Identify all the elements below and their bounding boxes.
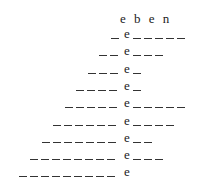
blanks-before	[53, 115, 119, 130]
blank-slot[interactable]	[144, 115, 152, 126]
blank-slot[interactable]	[133, 149, 141, 160]
revealed-letter: e	[124, 43, 130, 59]
blank-slot[interactable]	[86, 115, 94, 126]
blank-slot[interactable]	[87, 97, 95, 108]
puzzle-row: e	[0, 45, 199, 61]
blanks-after	[133, 132, 155, 147]
revealed-letter: e	[124, 147, 130, 163]
blank-slot[interactable]	[96, 166, 104, 177]
puzzle-row: e	[0, 149, 199, 165]
blank-slot[interactable]	[133, 45, 141, 56]
blank-slot[interactable]	[99, 63, 107, 74]
puzzle-header: e b e n	[120, 11, 172, 27]
blank-slot[interactable]	[109, 97, 117, 108]
blank-slot[interactable]	[111, 28, 119, 39]
revealed-letter: e	[124, 78, 130, 94]
blank-slot[interactable]	[75, 132, 83, 143]
blank-slot[interactable]	[133, 63, 141, 74]
blank-slot[interactable]	[133, 132, 141, 143]
blank-slot[interactable]	[98, 97, 106, 108]
blank-slot[interactable]	[52, 149, 60, 160]
blank-slot[interactable]	[177, 28, 185, 39]
blank-slot[interactable]	[144, 97, 152, 108]
blank-slot[interactable]	[96, 149, 104, 160]
blank-slot[interactable]	[42, 132, 50, 143]
blank-slot[interactable]	[108, 132, 116, 143]
revealed-letter: e	[124, 130, 130, 146]
blank-slot[interactable]	[110, 45, 118, 56]
blank-slot[interactable]	[85, 149, 93, 160]
blank-slot[interactable]	[155, 149, 163, 160]
blank-slot[interactable]	[86, 132, 94, 143]
puzzle-row: e	[0, 28, 199, 44]
blank-slot[interactable]	[155, 45, 163, 56]
blank-slot[interactable]	[166, 28, 174, 39]
blanks-before	[30, 149, 118, 164]
blank-slot[interactable]	[166, 97, 174, 108]
blanks-after	[133, 115, 177, 130]
blank-slot[interactable]	[76, 97, 84, 108]
blank-slot[interactable]	[144, 45, 152, 56]
blank-slot[interactable]	[109, 80, 117, 91]
blank-slot[interactable]	[155, 97, 163, 108]
blank-slot[interactable]	[155, 28, 163, 39]
blank-slot[interactable]	[76, 80, 84, 91]
blank-slot[interactable]	[75, 115, 83, 126]
blank-slot[interactable]	[133, 80, 141, 91]
blanks-after	[133, 97, 188, 112]
blank-slot[interactable]	[64, 132, 72, 143]
blank-slot[interactable]	[177, 97, 185, 108]
blank-slot[interactable]	[63, 149, 71, 160]
blank-slot[interactable]	[144, 132, 152, 143]
blank-slot[interactable]	[41, 149, 49, 160]
blanks-after	[133, 45, 166, 60]
blanks-before	[111, 28, 122, 43]
blank-slot[interactable]	[64, 115, 72, 126]
blank-slot[interactable]	[74, 149, 82, 160]
blanks-before	[65, 97, 120, 112]
blank-slot[interactable]	[88, 63, 96, 74]
revealed-letter: e	[124, 164, 130, 180]
blank-slot[interactable]	[97, 115, 105, 126]
blank-slot[interactable]	[53, 115, 61, 126]
blank-slot[interactable]	[133, 115, 141, 126]
blanks-before	[19, 166, 118, 180]
blank-slot[interactable]	[133, 97, 141, 108]
blank-slot[interactable]	[41, 166, 49, 177]
blank-slot[interactable]	[133, 28, 141, 39]
blanks-before	[42, 132, 119, 147]
blank-slot[interactable]	[19, 166, 27, 177]
blank-slot[interactable]	[30, 149, 38, 160]
revealed-letter: e	[124, 95, 130, 111]
blank-slot[interactable]	[108, 115, 116, 126]
blank-slot[interactable]	[107, 149, 115, 160]
blanks-after	[133, 149, 166, 164]
blank-slot[interactable]	[65, 97, 73, 108]
revealed-letter: e	[124, 26, 130, 42]
puzzle-row: e	[0, 132, 199, 148]
blanks-before	[76, 80, 120, 95]
blank-slot[interactable]	[63, 166, 71, 177]
blank-slot[interactable]	[110, 63, 118, 74]
blank-slot[interactable]	[99, 45, 107, 56]
blanks-after	[133, 63, 144, 78]
blank-slot[interactable]	[107, 166, 115, 177]
blank-slot[interactable]	[144, 28, 152, 39]
blank-slot[interactable]	[97, 132, 105, 143]
blanks-before	[88, 63, 121, 78]
blank-slot[interactable]	[30, 166, 38, 177]
blank-slot[interactable]	[144, 149, 152, 160]
puzzle-row: e	[0, 80, 199, 96]
puzzle-row: e	[0, 97, 199, 113]
puzzle-row: e	[0, 166, 199, 180]
blank-slot[interactable]	[74, 166, 82, 177]
blank-slot[interactable]	[53, 132, 61, 143]
blanks-after	[133, 28, 188, 43]
blank-slot[interactable]	[52, 166, 60, 177]
blank-slot[interactable]	[87, 80, 95, 91]
blank-slot[interactable]	[155, 115, 163, 126]
blank-slot[interactable]	[85, 166, 93, 177]
blank-slot[interactable]	[166, 115, 174, 126]
puzzle-row: e	[0, 115, 199, 131]
blank-slot[interactable]	[98, 80, 106, 91]
